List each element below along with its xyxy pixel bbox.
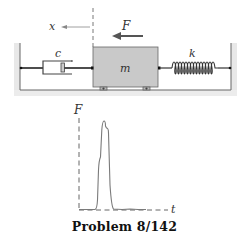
force-time-plot: F t xyxy=(73,103,176,216)
plot-force-axis-label: F xyxy=(73,103,83,117)
x-arrow-head-icon xyxy=(61,25,67,29)
mass-spring-damper-diagram: x F c m k F t xyxy=(0,0,249,246)
force-label: F xyxy=(121,19,131,33)
wheel-right-hub xyxy=(145,88,147,90)
spring-coil xyxy=(172,62,218,74)
spring-label: k xyxy=(189,47,196,60)
force-pulse-curve xyxy=(79,121,146,210)
force-arrow-head-icon xyxy=(112,32,121,40)
mass-connector-left xyxy=(91,67,94,70)
plot-time-axis-label: t xyxy=(171,203,176,216)
x-label: x xyxy=(49,20,56,33)
floor-shade xyxy=(14,90,237,96)
right-wall-shade xyxy=(231,43,237,93)
figure-caption: Problem 8/142 xyxy=(0,219,249,234)
left-anchor xyxy=(20,67,23,70)
right-anchor xyxy=(229,67,232,70)
mass-label: m xyxy=(120,62,130,75)
left-wall-shade xyxy=(14,43,20,93)
wheel-left-hub xyxy=(102,88,104,90)
damper-label: c xyxy=(55,47,61,60)
damper-piston xyxy=(61,63,65,72)
